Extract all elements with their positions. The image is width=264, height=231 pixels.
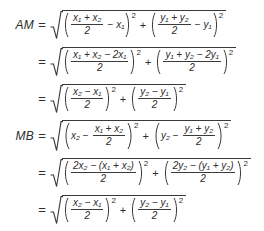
- minus-operator: −: [192, 19, 204, 30]
- squared-group: x₂ − x₁ + x₂ 2 2: [63, 122, 139, 150]
- group-body: x₁ + x₂ 2 − x₁: [69, 13, 125, 36]
- fraction-denominator: 2: [95, 62, 105, 73]
- equals-sign: =: [34, 17, 50, 32]
- fraction: x₁ + x₂ 2: [71, 13, 103, 36]
- exponent: 2: [229, 48, 233, 57]
- plus-connector: +: [116, 204, 130, 216]
- squared-group: x₁ + x₂ − 2x₁ 2 2: [63, 49, 141, 75]
- radicand: x₁ + x₂ − 2x₁ 2 2 +: [62, 47, 236, 77]
- equals-sign: =: [34, 165, 50, 180]
- fraction-denominator: 2: [150, 99, 160, 110]
- plus-connector: +: [148, 167, 162, 179]
- fraction: x₂ − x₁ 2: [71, 198, 103, 221]
- fraction-denominator: 2: [170, 25, 180, 36]
- trailing-variable: x₁: [116, 19, 124, 30]
- fraction: 2y₂ − (y₁ + y₂) 2: [171, 161, 236, 184]
- fraction: y₁ + y₂ 2: [158, 13, 190, 36]
- fraction-numerator: y₁ + y₂: [183, 124, 215, 136]
- equals-sign: =: [34, 91, 50, 106]
- radicand: 2x₂ − (x₁ + x₂) 2 2 +: [62, 158, 251, 188]
- squared-group: x₁ + x₂ 2 − x₁ 2: [63, 12, 136, 38]
- fraction: y₁ + y₂ 2: [183, 124, 215, 147]
- squared-group: y₂ − y₁ 2 2: [130, 197, 183, 223]
- fraction-numerator: y₂ − y₁: [138, 198, 170, 210]
- plus-connector: +: [139, 130, 153, 142]
- squared-group: 2x₂ − (x₁ + x₂) 2 2: [63, 160, 148, 186]
- fraction-numerator: x₂ − x₁: [71, 198, 103, 210]
- fraction-numerator: x₁ + x₂: [93, 124, 125, 136]
- equation-line: = x₂ − x₁ 2: [4, 80, 262, 117]
- right-paren-icon: [127, 122, 134, 150]
- fraction-numerator: y₁ + y₂: [158, 13, 190, 25]
- equation-line: = 2x₂ − (x₁ + x₂) 2: [4, 154, 262, 191]
- exponent: 2: [179, 196, 183, 205]
- exponent: 2: [179, 85, 183, 94]
- fraction-numerator: 2x₂ − (x₁ + x₂): [71, 161, 136, 173]
- exponent: 2: [134, 121, 138, 130]
- right-paren-icon: [217, 122, 224, 150]
- fraction-denominator: 2: [104, 136, 114, 147]
- left-paren-icon: [63, 122, 70, 150]
- equation-line: = x₁ + x₂ − 2x₁ 2: [4, 43, 262, 80]
- equation-line: AM = x₁ + x₂ 2 − x₁: [4, 6, 262, 43]
- fraction-denominator: 2: [82, 210, 92, 221]
- fraction-denominator: 2: [194, 136, 204, 147]
- plus-connector: +: [136, 19, 150, 31]
- fraction: y₂ − y₁ 2: [138, 87, 170, 110]
- fraction: y₁ + y₂ − 2y₁ 2: [163, 50, 220, 73]
- square-root: x₂ − x₁ 2 2 + y₂: [50, 84, 186, 114]
- equation-label: AM: [4, 18, 34, 32]
- squared-group: y₂ − y₁ + y₂ 2 2: [153, 122, 229, 150]
- plus-connector: +: [116, 93, 130, 105]
- fraction-numerator: y₁ + y₂ − 2y₁: [163, 50, 220, 62]
- group-body: x₂ − x₁ + x₂ 2: [70, 124, 127, 147]
- radicand: x₂ − x₁ + x₂ 2 2 +: [62, 120, 231, 152]
- fraction: y₂ − y₁ 2: [138, 198, 170, 221]
- fraction: x₂ − x₁ 2: [71, 87, 103, 110]
- exponent: 2: [243, 159, 247, 168]
- equals-sign: =: [34, 128, 50, 143]
- squared-group: y₂ − y₁ 2 2: [130, 86, 183, 112]
- group-body: 2y₂ − (y₁ + y₂) 2: [169, 161, 238, 184]
- math-derivation-sheet: AM = x₁ + x₂ 2 − x₁: [0, 0, 264, 231]
- exponent: 2: [224, 121, 228, 130]
- equals-sign: =: [34, 54, 50, 69]
- square-root: x₂ − x₁ 2 2 + y₂: [50, 195, 186, 225]
- fraction-numerator: x₁ + x₂: [71, 13, 103, 25]
- group-body: y₁ + y₂ − 2y₁ 2: [161, 50, 222, 73]
- fraction-denominator: 2: [82, 99, 92, 110]
- trailing-variable: y₁: [203, 19, 211, 30]
- fraction: x₁ + x₂ − 2x₁ 2: [71, 50, 128, 73]
- squared-group: x₂ − x₁ 2 2: [63, 86, 116, 112]
- square-root: x₂ − x₁ + x₂ 2 2 +: [50, 120, 231, 152]
- radicand: x₂ − x₁ 2 2 + y₂: [62, 84, 186, 114]
- fraction-numerator: y₂ − y₁: [138, 87, 170, 99]
- fraction-denominator: 2: [187, 62, 197, 73]
- fraction-numerator: x₁ + x₂ − 2x₁: [71, 50, 128, 62]
- equals-sign: =: [34, 202, 50, 217]
- radicand: x₂ − x₁ 2 2 + y₂: [62, 195, 186, 225]
- fraction-numerator: 2y₂ − (y₁ + y₂): [171, 161, 236, 173]
- fraction: x₁ + x₂ 2: [93, 124, 125, 147]
- squared-group: y₁ + y₂ − 2y₁ 2 2: [155, 49, 233, 75]
- leading-variable: x₂: [71, 130, 80, 141]
- equation-line: = x₂ − x₁ 2: [4, 191, 262, 228]
- squared-group: x₂ − x₁ 2 2: [63, 197, 116, 223]
- group-body: y₁ + y₂ 2 − y₁: [156, 13, 212, 36]
- leading-variable: y₂: [161, 130, 170, 141]
- equation-line: MB = x₂ − x₁ + x₂ 2: [4, 117, 262, 154]
- square-root: x₁ + x₂ − 2x₁ 2 2 +: [50, 47, 236, 77]
- group-body: x₂ − x₁ 2: [69, 87, 105, 110]
- group-body: x₁ + x₂ − 2x₁ 2: [69, 50, 130, 73]
- squared-group: 2y₂ − (y₁ + y₂) 2 2: [163, 160, 248, 186]
- exponent: 2: [219, 11, 223, 20]
- fraction-denominator: 2: [82, 25, 92, 36]
- fraction-denominator: 2: [99, 173, 109, 184]
- squared-group: y₁ + y₂ 2 − y₁ 2: [150, 12, 223, 38]
- square-root: x₁ + x₂ 2 − x₁ 2 +: [50, 10, 226, 40]
- minus-operator: −: [104, 19, 116, 30]
- group-body: x₂ − x₁ 2: [69, 198, 105, 221]
- minus-operator: −: [170, 130, 182, 141]
- group-body: y₂ − y₁ 2: [136, 198, 172, 221]
- plus-connector: +: [141, 56, 155, 68]
